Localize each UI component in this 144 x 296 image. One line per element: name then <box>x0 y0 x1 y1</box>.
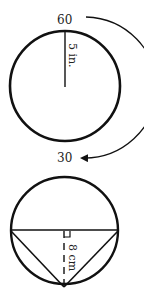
right-angle-marker <box>64 231 70 237</box>
figure-clock: 60 5 in. 30 <box>10 13 144 165</box>
label-30: 30 <box>57 151 72 165</box>
height-label: 8 cm <box>66 244 79 272</box>
figure-inscribed-triangle: 8 cm <box>11 177 118 287</box>
label-60: 60 <box>57 13 72 27</box>
diagram-canvas: 60 5 in. 30 8 cm <box>0 0 144 296</box>
radius-label: 5 in. <box>66 43 79 68</box>
